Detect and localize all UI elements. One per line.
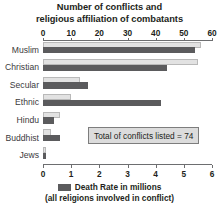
bar-death-rate [43,65,167,71]
axis-tick-label: 2 [97,169,102,179]
chart-legend: Death Rate in millions (all religions in… [0,182,219,203]
category-label: Ethnic [15,97,39,107]
category-label: Hindu [17,115,39,125]
bar-death-rate [43,117,54,123]
axis-tick-label: 50 [179,28,188,38]
legend-swatch-death-rate [58,184,71,191]
axis-tick-label: 20 [95,28,104,38]
chart-title: Number of conflicts and religious affili… [0,2,219,25]
legend-sublabel: (all religions involved in conflict) [0,193,219,204]
axis-tick-label: 10 [67,28,76,38]
axis-tick-label: 4 [153,169,158,179]
axis-tick-label: 6 [210,169,215,179]
bar-death-rate [43,153,46,159]
bar-row: Christian [43,59,212,77]
legend-label-death-rate: Death Rate in millions [75,182,162,193]
bar-row: Jews [43,146,212,164]
axis-tick-label: 0 [41,28,46,38]
bar-death-rate [43,100,161,106]
bar-row: Muslim [43,41,212,59]
category-label: Buddhist [6,133,39,143]
axis-tick-label: 1 [69,169,74,179]
category-label: Christian [5,62,39,72]
axis-tick-label: 60 [207,28,216,38]
chart-title-line-1: Number of conflicts and [0,2,219,14]
chart-title-line-2: religious affiliation of combatants [0,14,219,26]
axis-tick-label: 40 [151,28,160,38]
category-label: Secular [10,80,39,90]
total-conflicts-callout: Total of conflicts listed = 74 [88,127,199,144]
axis-tick-label: 5 [182,169,187,179]
bar-rows: MuslimChristianSecularEthnicHinduBuddhis… [43,41,212,164]
plot-area: 0102030405060 MuslimChristianSecularEthn… [43,40,212,165]
axis-tick-label: 3 [125,169,130,179]
bar-death-rate [43,47,195,53]
bar-row: Ethnic [43,94,212,112]
bar-death-rate [43,135,60,141]
category-label: Jews [19,150,39,160]
axis-tick-label: 0 [41,169,46,179]
bottom-axis: 0123456 [43,164,212,165]
axis-tick [212,38,213,41]
category-label: Muslim [12,45,39,55]
chart-container: Number of conflicts and religious affili… [0,0,219,212]
bar-row: Secular [43,76,212,94]
legend-entry-death-rate: Death Rate in millions [0,182,219,193]
axis-tick-label: 30 [123,28,132,38]
bar-death-rate [43,82,88,88]
